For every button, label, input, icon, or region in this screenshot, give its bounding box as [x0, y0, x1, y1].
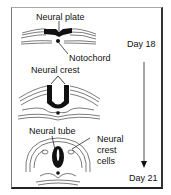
- diagram-artwork: [0, 0, 171, 195]
- neural-crest-cells-leader: [72, 138, 90, 149]
- label-neural-tube: Neural tube: [29, 126, 76, 136]
- notochord-shape-2: [56, 111, 60, 115]
- timeline-start-label: Day 18: [127, 39, 156, 49]
- neural-plate-shape: [44, 28, 72, 37]
- label-neural-crest-cells-line3: cells: [97, 156, 115, 166]
- label-neural-crest-cells-line2: crest: [97, 145, 117, 155]
- notochord-shape: [56, 39, 60, 43]
- timeline-end-label: Day 21: [129, 173, 158, 183]
- neural-crest-peak: [51, 76, 65, 84]
- label-neural-crest: Neural crest: [31, 65, 80, 75]
- label-neural-crest-cells-line1: Neural: [97, 134, 124, 144]
- neural-fold-drawing: [18, 86, 100, 120]
- notochord-leader: [59, 43, 68, 54]
- notochord-shape-3: [56, 171, 60, 175]
- label-notochord: Notochord: [69, 53, 111, 63]
- timeline-arrowhead-icon: [141, 161, 147, 168]
- neural-groove-shape: [47, 85, 69, 109]
- label-neural-plate: Neural plate: [36, 12, 85, 22]
- neural-tube-lumen: [57, 149, 60, 161]
